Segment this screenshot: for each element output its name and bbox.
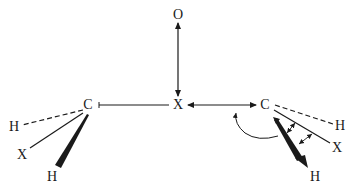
rotation-curved-arrow	[236, 113, 278, 138]
angle-double-arrow-1	[287, 123, 295, 133]
atom-oxygen: O	[173, 8, 183, 22]
bond-left-c-h-dashed	[22, 110, 83, 125]
bond-left-c-x-plain	[30, 113, 83, 148]
atom-right-h-wedge: H	[310, 170, 320, 184]
atom-right-h-dashed: H	[335, 119, 345, 133]
atom-right-x-plain: X	[332, 141, 342, 155]
angle-double-arrow-2	[299, 134, 312, 144]
atom-left-h-wedge: H	[47, 170, 57, 184]
atom-right-carbon: C	[260, 98, 269, 112]
atom-center-x: X	[173, 98, 183, 112]
bond-right-c-h-dashed	[275, 105, 333, 124]
atom-left-carbon: C	[83, 98, 92, 112]
atom-left-h-dashed: H	[9, 120, 19, 134]
molecular-diagram	[0, 0, 354, 191]
bond-left-c-h-wedge	[55, 114, 89, 168]
atom-left-x-plain: X	[17, 148, 27, 162]
